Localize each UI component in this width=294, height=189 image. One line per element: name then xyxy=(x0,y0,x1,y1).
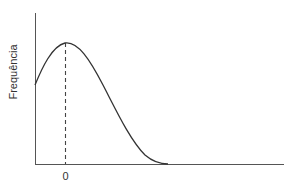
frequency-chart: 0 Frequência xyxy=(0,0,294,189)
y-axis-label: Frequência xyxy=(7,44,19,100)
x-tick-label-zero: 0 xyxy=(62,170,68,182)
frequency-curve xyxy=(35,43,168,164)
